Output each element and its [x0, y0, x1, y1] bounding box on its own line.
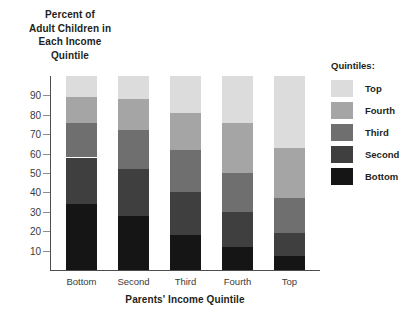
- bar-segment-top: [170, 76, 201, 113]
- legend-swatch-second: [331, 146, 353, 163]
- y-tick-label: 70: [30, 129, 41, 140]
- y-tick-mark: [43, 173, 50, 174]
- bar-segment-bottom: [66, 204, 97, 270]
- legend-label: Fourth: [365, 105, 395, 116]
- x-axis-title: Parents' Income Quintile: [50, 294, 320, 305]
- bar-segment-bottom: [118, 216, 149, 270]
- stacked-bar: [66, 76, 97, 270]
- bar-segment-third: [222, 173, 253, 212]
- y-tick-mark: [43, 134, 50, 135]
- y-tick-mark: [43, 231, 50, 232]
- y-tick-label: 90: [30, 90, 41, 101]
- y-tick-label: 10: [30, 245, 41, 256]
- bar-segment-top: [222, 76, 253, 123]
- bar-segment-second: [170, 192, 201, 235]
- bar-segment-second: [66, 158, 97, 205]
- bar-segment-top: [274, 76, 305, 148]
- legend-item-second: Second: [331, 143, 407, 165]
- bar-segment-fourth: [222, 123, 253, 173]
- bar-segment-third: [274, 198, 305, 233]
- legend-swatch-bottom: [331, 168, 353, 185]
- legend: Quintiles: TopFourthThirdSecondBottom: [331, 60, 407, 187]
- bar-segment-third: [170, 150, 201, 193]
- legend-swatch-fourth: [331, 102, 353, 119]
- x-category-label: Top: [255, 276, 325, 287]
- chart-figure: Percent of Adult Children in Each Income…: [0, 0, 409, 314]
- y-axis-line: [50, 76, 51, 271]
- plot-area: 102030405060708090 BottomSecondThirdFour…: [50, 76, 320, 271]
- chart-title-line-1: Percent of: [4, 8, 136, 22]
- bar-segment-top: [66, 76, 97, 97]
- chart-title-line-4: Quintile: [4, 49, 136, 63]
- bar-segment-third: [118, 130, 149, 169]
- y-tick-mark: [43, 192, 50, 193]
- bar-segment-fourth: [118, 99, 149, 130]
- bar-segment-second: [274, 233, 305, 256]
- bar-segment-fourth: [170, 113, 201, 150]
- y-tick-mark: [43, 212, 50, 213]
- bar-segment-second: [118, 169, 149, 216]
- bar-segment-fourth: [66, 97, 97, 122]
- legend-rows: TopFourthThirdSecondBottom: [331, 77, 407, 187]
- chart-title-line-2: Adult Children in: [4, 22, 136, 36]
- stacked-bar: [118, 76, 149, 270]
- y-tick-label: 50: [30, 168, 41, 179]
- stacked-bar: [274, 76, 305, 270]
- y-tick-label: 80: [30, 109, 41, 120]
- x-axis-line: [50, 270, 320, 271]
- legend-swatch-top: [331, 80, 353, 97]
- legend-label: Top: [365, 83, 382, 94]
- y-tick-mark: [43, 154, 50, 155]
- stacked-bar: [170, 76, 201, 270]
- legend-label: Second: [365, 149, 399, 160]
- bar-segment-bottom: [274, 256, 305, 270]
- chart-title: Percent of Adult Children in Each Income…: [4, 8, 136, 62]
- bar-segment-second: [222, 212, 253, 247]
- y-tick-label: 20: [30, 226, 41, 237]
- legend-swatch-third: [331, 124, 353, 141]
- stacked-bar: [222, 76, 253, 270]
- y-tick-mark: [43, 251, 50, 252]
- bar-segment-top: [118, 76, 149, 99]
- y-tick-label: 60: [30, 148, 41, 159]
- legend-label: Third: [365, 127, 389, 138]
- y-tick-mark: [43, 95, 50, 96]
- y-tick-label: 30: [30, 206, 41, 217]
- legend-title: Quintiles:: [331, 60, 407, 71]
- bar-segment-bottom: [222, 247, 253, 270]
- chart-title-line-3: Each Income: [4, 35, 136, 49]
- bar-segment-third: [66, 123, 97, 158]
- bar-segment-fourth: [274, 148, 305, 198]
- legend-item-third: Third: [331, 121, 407, 143]
- y-tick-mark: [43, 115, 50, 116]
- legend-item-fourth: Fourth: [331, 99, 407, 121]
- legend-item-top: Top: [331, 77, 407, 99]
- legend-item-bottom: Bottom: [331, 165, 407, 187]
- legend-label: Bottom: [365, 171, 398, 182]
- y-tick-label: 40: [30, 187, 41, 198]
- bar-segment-bottom: [170, 235, 201, 270]
